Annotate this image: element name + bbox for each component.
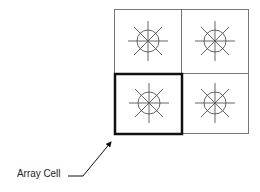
radiating-element-icon [129,83,169,123]
radiating-element-icon [195,21,235,61]
callout-label: Array Cell [17,167,60,179]
radiating-element-icon [128,21,168,61]
array-diagram [0,0,260,192]
callout-arrow [68,142,111,176]
radiating-element-icon [195,83,235,123]
